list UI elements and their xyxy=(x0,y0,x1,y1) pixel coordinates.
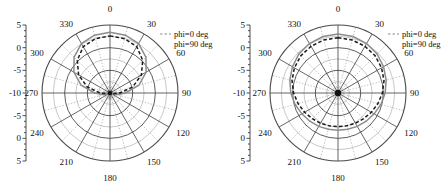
grid-spoke-major xyxy=(76,93,110,152)
center-marker xyxy=(335,90,341,96)
radial-tick-label: 5 xyxy=(241,20,246,30)
legend-label-phi0: phi=0 deg xyxy=(402,29,437,39)
grid-spoke-major xyxy=(279,93,338,127)
grid-spoke-major xyxy=(110,59,169,93)
angle-tick-label-60: 60 xyxy=(176,48,186,58)
angle-tick-label-60: 60 xyxy=(404,48,414,58)
angle-tick-label-180: 180 xyxy=(331,173,345,183)
polar-plot-right: 50-5-10-505 0306090120150180210240270300… xyxy=(224,0,447,184)
legend-label-phi90: phi=90 deg xyxy=(402,39,441,49)
right-radial-axis: 50-5-10-505 xyxy=(233,20,250,166)
angle-tick-label-270: 270 xyxy=(25,88,39,98)
angle-tick-label-240: 240 xyxy=(30,128,44,138)
grid-spoke-major xyxy=(51,93,110,127)
radial-tick-label: -10 xyxy=(9,88,21,98)
left-radial-axis: 50-5-10-505 xyxy=(9,20,26,166)
radial-tick-label: 0 xyxy=(17,133,22,143)
radial-tick-label: -5 xyxy=(238,111,246,121)
angle-tick-label-300: 300 xyxy=(258,48,272,58)
grid-spoke-major xyxy=(51,59,110,93)
angle-tick-label-150: 150 xyxy=(375,157,389,167)
angle-tick-label-180: 180 xyxy=(103,173,117,183)
grid-spoke-major xyxy=(110,93,169,127)
grid-spoke-major xyxy=(338,93,397,127)
angle-tick-label-300: 300 xyxy=(30,48,44,58)
polar-plot-left: 50-5-10-505 0306090120150180210240270300… xyxy=(0,0,223,184)
angle-tick-label-150: 150 xyxy=(147,157,161,167)
legend-label-phi0: phi=0 deg xyxy=(174,29,209,39)
angle-tick-label-90: 90 xyxy=(182,88,192,98)
grid-spoke-major xyxy=(304,93,338,152)
polar-chart-left-svg: 50-5-10-505 0306090120150180210240270300… xyxy=(0,0,223,184)
radial-tick-label: 0 xyxy=(241,43,246,53)
angle-tick-label-270: 270 xyxy=(253,88,267,98)
angle-tick-label-90: 90 xyxy=(410,88,420,98)
angle-tick-label-330: 330 xyxy=(60,19,74,29)
angle-tick-label-0: 0 xyxy=(108,4,113,14)
angle-tick-label-120: 120 xyxy=(404,128,418,138)
angle-tick-label-210: 210 xyxy=(288,157,302,167)
angle-tick-label-210: 210 xyxy=(60,157,74,167)
radial-tick-label: 5 xyxy=(17,20,22,30)
radial-tick-label: -10 xyxy=(233,88,245,98)
angle-tick-label-30: 30 xyxy=(375,19,385,29)
radial-tick-label: 0 xyxy=(17,43,22,53)
angle-tick-label-330: 330 xyxy=(288,19,302,29)
figure-root: 50-5-10-505 0306090120150180210240270300… xyxy=(0,0,447,184)
angle-tick-label-240: 240 xyxy=(258,128,272,138)
angle-tick-label-0: 0 xyxy=(336,4,341,14)
right-legend: phi=0 degphi=90 deg xyxy=(388,29,441,49)
legend-label-phi90: phi=90 deg xyxy=(174,39,213,49)
radial-tick-label: -5 xyxy=(14,65,22,75)
angle-tick-label-120: 120 xyxy=(176,128,190,138)
grid-spoke-major xyxy=(110,93,144,152)
radial-tick-label: 5 xyxy=(241,156,246,166)
grid-spoke-major xyxy=(338,93,372,152)
radial-tick-label: -5 xyxy=(238,65,246,75)
radial-tick-label: -5 xyxy=(14,111,22,121)
radial-tick-label: 0 xyxy=(241,133,246,143)
left-legend: phi=0 degphi=90 deg xyxy=(160,29,213,49)
polar-chart-right-svg: 50-5-10-505 0306090120150180210240270300… xyxy=(224,0,447,184)
angle-tick-label-30: 30 xyxy=(147,19,157,29)
grid-spoke-major xyxy=(279,59,338,93)
radial-tick-label: 5 xyxy=(17,156,22,166)
center-marker xyxy=(108,91,112,95)
grid-spoke-major xyxy=(338,59,397,93)
